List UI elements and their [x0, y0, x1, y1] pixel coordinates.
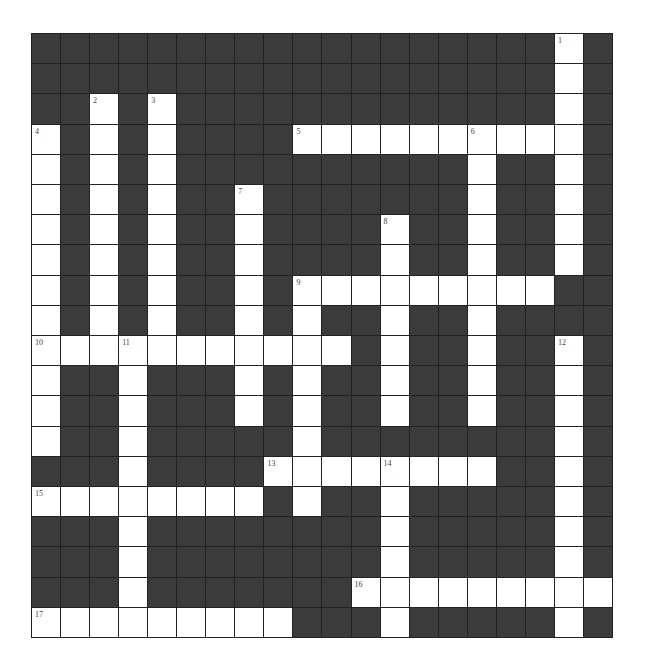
crossword-cell[interactable]: [381, 517, 409, 546]
crossword-cell[interactable]: [381, 245, 409, 274]
crossword-cell[interactable]: [555, 517, 583, 546]
crossword-cell[interactable]: [32, 396, 60, 425]
crossword-cell[interactable]: [206, 487, 234, 516]
crossword-cell[interactable]: [468, 276, 496, 305]
crossword-cell[interactable]: [381, 547, 409, 576]
crossword-cell[interactable]: 6: [468, 125, 496, 154]
crossword-cell[interactable]: [497, 276, 525, 305]
crossword-cell[interactable]: 8: [381, 215, 409, 244]
crossword-cell[interactable]: [32, 306, 60, 335]
crossword-cell[interactable]: [555, 125, 583, 154]
crossword-cell[interactable]: [468, 245, 496, 274]
crossword-cell[interactable]: [526, 125, 554, 154]
crossword-cell[interactable]: [119, 396, 147, 425]
crossword-cell[interactable]: [32, 185, 60, 214]
crossword-cell[interactable]: [439, 578, 467, 607]
crossword-cell[interactable]: [555, 427, 583, 456]
crossword-cell[interactable]: [32, 276, 60, 305]
crossword-cell[interactable]: [32, 427, 60, 456]
crossword-cell[interactable]: [90, 155, 118, 184]
crossword-cell[interactable]: [381, 336, 409, 365]
crossword-cell[interactable]: 11: [119, 336, 147, 365]
crossword-cell[interactable]: [410, 276, 438, 305]
crossword-cell[interactable]: [177, 487, 205, 516]
crossword-cell[interactable]: [148, 608, 176, 637]
crossword-cell[interactable]: [468, 396, 496, 425]
crossword-cell[interactable]: [90, 276, 118, 305]
crossword-cell[interactable]: [410, 578, 438, 607]
crossword-cell[interactable]: [381, 276, 409, 305]
crossword-cell[interactable]: [32, 215, 60, 244]
crossword-cell[interactable]: [148, 276, 176, 305]
crossword-cell[interactable]: [235, 245, 263, 274]
crossword-cell[interactable]: [119, 427, 147, 456]
crossword-cell[interactable]: [293, 336, 321, 365]
crossword-cell[interactable]: [61, 487, 89, 516]
crossword-cell[interactable]: [90, 125, 118, 154]
crossword-cell[interactable]: [90, 306, 118, 335]
crossword-cell[interactable]: [264, 336, 292, 365]
crossword-cell[interactable]: [352, 125, 380, 154]
crossword-cell[interactable]: [235, 396, 263, 425]
crossword-cell[interactable]: [468, 185, 496, 214]
crossword-cell[interactable]: [322, 276, 350, 305]
crossword-cell[interactable]: [381, 487, 409, 516]
crossword-cell[interactable]: [555, 578, 583, 607]
crossword-cell[interactable]: [381, 578, 409, 607]
crossword-cell[interactable]: [235, 487, 263, 516]
crossword-cell[interactable]: [555, 366, 583, 395]
crossword-cell[interactable]: [439, 125, 467, 154]
crossword-cell[interactable]: [235, 215, 263, 244]
crossword-cell[interactable]: [206, 336, 234, 365]
crossword-cell[interactable]: [468, 336, 496, 365]
crossword-cell[interactable]: [468, 155, 496, 184]
crossword-cell[interactable]: 14: [381, 457, 409, 486]
crossword-cell[interactable]: [468, 306, 496, 335]
crossword-cell[interactable]: [526, 578, 554, 607]
crossword-cell[interactable]: [235, 336, 263, 365]
crossword-cell[interactable]: [468, 215, 496, 244]
crossword-cell[interactable]: [322, 457, 350, 486]
crossword-cell[interactable]: 7: [235, 185, 263, 214]
crossword-cell[interactable]: [293, 306, 321, 335]
crossword-cell[interactable]: [119, 517, 147, 546]
crossword-cell[interactable]: [148, 336, 176, 365]
crossword-cell[interactable]: [555, 215, 583, 244]
crossword-cell[interactable]: 17: [32, 608, 60, 637]
crossword-cell[interactable]: [410, 125, 438, 154]
crossword-cell[interactable]: [352, 276, 380, 305]
crossword-cell[interactable]: [497, 578, 525, 607]
crossword-cell[interactable]: [235, 608, 263, 637]
crossword-cell[interactable]: [293, 457, 321, 486]
crossword-cell[interactable]: 1: [555, 34, 583, 63]
crossword-cell[interactable]: [90, 487, 118, 516]
crossword-cell[interactable]: 4: [32, 125, 60, 154]
crossword-cell[interactable]: 15: [32, 487, 60, 516]
crossword-cell[interactable]: [555, 547, 583, 576]
crossword-cell[interactable]: [555, 185, 583, 214]
crossword-cell[interactable]: [381, 608, 409, 637]
crossword-cell[interactable]: [381, 396, 409, 425]
crossword-cell[interactable]: [119, 547, 147, 576]
crossword-cell[interactable]: [90, 215, 118, 244]
crossword-cell[interactable]: [352, 457, 380, 486]
crossword-cell[interactable]: [90, 608, 118, 637]
crossword-cell[interactable]: [119, 457, 147, 486]
crossword-cell[interactable]: [177, 608, 205, 637]
crossword-cell[interactable]: [148, 125, 176, 154]
crossword-cell[interactable]: 9: [293, 276, 321, 305]
crossword-cell[interactable]: [322, 336, 350, 365]
crossword-cell[interactable]: [90, 185, 118, 214]
crossword-cell[interactable]: [90, 245, 118, 274]
crossword-cell[interactable]: 10: [32, 336, 60, 365]
crossword-cell[interactable]: [584, 578, 612, 607]
crossword-cell[interactable]: 5: [293, 125, 321, 154]
crossword-cell[interactable]: [497, 125, 525, 154]
crossword-cell[interactable]: [148, 306, 176, 335]
crossword-cell[interactable]: [235, 276, 263, 305]
crossword-cell[interactable]: [119, 366, 147, 395]
crossword-cell[interactable]: [264, 608, 292, 637]
crossword-cell[interactable]: [119, 578, 147, 607]
crossword-cell[interactable]: 16: [352, 578, 380, 607]
crossword-cell[interactable]: [555, 487, 583, 516]
